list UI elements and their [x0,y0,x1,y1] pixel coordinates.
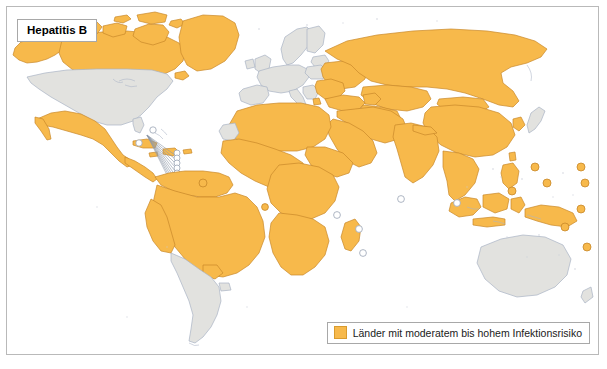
island-marker-nauru [543,179,551,187]
island-marker-caribbean-west [136,140,142,146]
hepatitis-b-world-map-figure: .hi { fill:#f7b94b; stroke:#c8882a; stro… [0,0,607,369]
island-marker-mauritius [360,250,367,257]
legend-color-swatch [334,326,347,339]
island-marker-comoros [334,212,341,219]
page-title: Hepatitis B [27,24,87,36]
country-indonesia-java [473,217,505,227]
island-marker-seychelles [356,226,363,233]
island-marker-maldives [398,196,405,203]
legend-label: Länder mit moderatem bis hohem Infektion… [353,327,582,339]
country-uruguay [219,283,231,291]
island-marker-vanuatu [561,223,569,231]
island-marker-singapore [454,200,461,207]
island-marker-palau [531,163,539,171]
island-marker-kiribati [581,179,589,187]
island-marker-solomon-islands [577,205,585,213]
island-marker-cape-verde [199,179,207,187]
island-marker-sao-tome [262,204,269,211]
island-marker-fiji [583,243,591,251]
island-marker-marshall-islands [577,163,585,171]
world-map-svg: .hi { fill:#f7b94b; stroke:#c8882a; stro… [7,7,598,354]
map-plate: .hi { fill:#f7b94b; stroke:#c8882a; stro… [6,6,599,355]
island-marker-bahamas [150,127,156,133]
map-title-plate: Hepatitis B [17,19,97,42]
country-ireland [245,59,255,69]
country-puerto-rico [183,149,192,154]
country-taiwan [509,152,516,161]
island-marker-micronesia [508,187,516,195]
map-legend: Länder mit moderatem bis hohem Infektion… [327,322,590,344]
